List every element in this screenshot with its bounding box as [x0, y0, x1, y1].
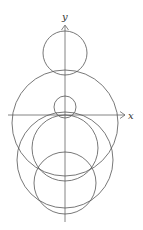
x-axis-label: x [128, 110, 134, 121]
circles-diagram: y x [0, 0, 143, 230]
y-axis-label: y [61, 11, 68, 22]
